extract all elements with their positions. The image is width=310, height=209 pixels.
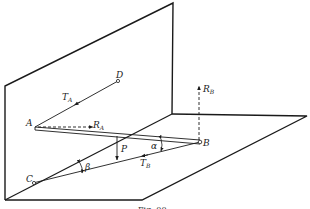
label-ra: RA bbox=[92, 120, 105, 131]
label-b: B bbox=[202, 138, 210, 148]
label-alpha: α bbox=[151, 141, 157, 151]
angle-alpha-arc bbox=[161, 139, 162, 151]
figure-caption: Fig. 00 bbox=[138, 205, 167, 209]
statics-diagram: D A B C TA RA RB TB P β α Fig. 00 bbox=[0, 0, 310, 209]
label-ta: TA bbox=[62, 92, 73, 103]
label-c: C bbox=[26, 174, 33, 184]
point-b bbox=[198, 140, 202, 144]
label-a: A bbox=[25, 118, 33, 128]
label-p: P bbox=[120, 144, 128, 154]
label-d: D bbox=[115, 70, 123, 80]
cable-da bbox=[35, 81, 118, 127]
label-beta: β bbox=[84, 162, 90, 172]
label-tb: TB bbox=[140, 158, 151, 169]
cable-bc bbox=[33, 142, 200, 183]
label-rb: RB bbox=[202, 84, 215, 95]
